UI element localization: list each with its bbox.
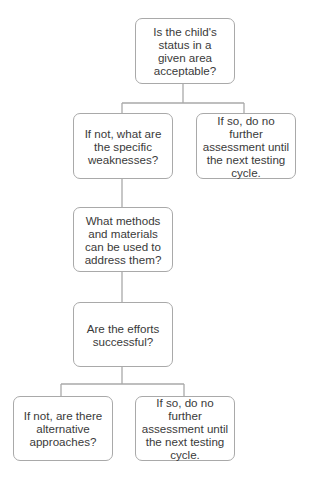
node-text: If so, do no further assessment until th… (140, 396, 230, 461)
node-text: If so, do no further assessment until th… (201, 114, 291, 179)
node-text: What methods and materials can be used t… (78, 214, 168, 266)
node-status-acceptable-question: Is the child's status in a given area ac… (135, 18, 235, 84)
node-alternative-approaches-question: If not, are there alternative approaches… (13, 396, 113, 461)
node-no-further-assessment-1: If so, do no further assessment until th… (196, 113, 296, 179)
node-text: If not, are there alternative approaches… (19, 409, 107, 448)
node-efforts-successful-question: Are the efforts successful? (73, 302, 173, 367)
node-specific-weaknesses-question: If not, what are the specific weaknesses… (73, 113, 173, 179)
node-text: Is the child's status in a given area ac… (144, 25, 226, 77)
node-text: If not, what are the specific weaknesses… (83, 127, 163, 166)
node-methods-materials-question: What methods and materials can be used t… (73, 207, 173, 272)
node-no-further-assessment-2: If so, do no further assessment until th… (135, 396, 235, 461)
flowchart: Is the child's status in a given area ac… (0, 0, 312, 482)
node-text: Are the efforts successful? (84, 322, 162, 348)
